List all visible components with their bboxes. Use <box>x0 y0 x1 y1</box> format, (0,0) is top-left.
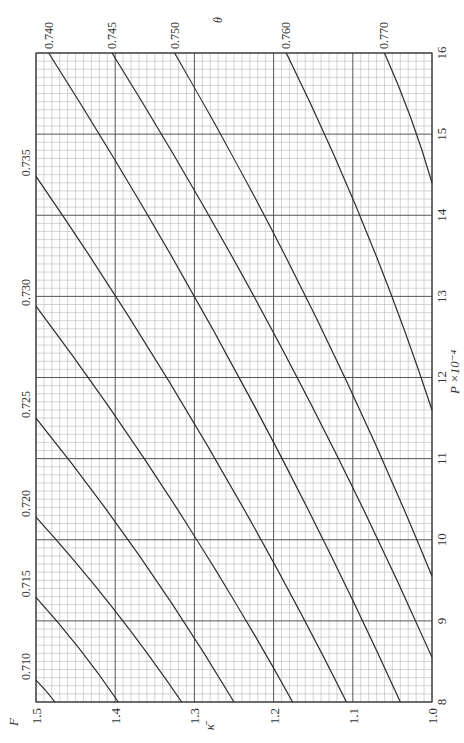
f-curve-0.745 <box>112 53 432 657</box>
x-tick-label: 8 <box>434 699 449 706</box>
y-tick-label: 1.2 <box>267 708 282 724</box>
x-tick-label: 14 <box>434 208 449 222</box>
f-curve-0.735 <box>36 176 346 702</box>
curve-label: 0.720 <box>19 490 33 517</box>
curve-label: 0.750 <box>168 22 182 49</box>
x-tick-label: 16 <box>434 46 449 60</box>
x-tick-label: 9 <box>434 618 449 625</box>
f-curve-0.710 <box>36 680 55 702</box>
curve-label: 0.725 <box>19 391 33 418</box>
curve-label: 0.710 <box>19 653 33 680</box>
chart-svg: 0.7100.7150.7200.7250.7300.7350.7400.745… <box>0 0 464 743</box>
y-tick-label: 1.0 <box>425 708 440 724</box>
x-tick-label: 15 <box>434 128 449 141</box>
y-tick-label: 1.3 <box>187 708 202 724</box>
x-tick-label: 13 <box>434 290 449 303</box>
curve-label: 0.715 <box>19 570 33 597</box>
curve-label: 0.760 <box>279 22 293 49</box>
curve-label: 0.735 <box>19 149 33 176</box>
curve-label: 0.745 <box>105 22 119 49</box>
f-curve-0.725 <box>36 418 234 702</box>
f-curve-0.720 <box>36 517 182 702</box>
family-theta-label: θ <box>211 17 225 23</box>
f-curve-0.750 <box>175 53 432 576</box>
curve-labels: 0.7100.7150.7200.7250.7300.7350.7400.745… <box>19 22 391 680</box>
y-tick-label: 1.4 <box>108 708 123 725</box>
x-axis-label: P ×10⁻⁴ <box>447 349 462 395</box>
y-tick-label: 1.1 <box>346 708 361 724</box>
curve-label: 0.730 <box>19 279 33 306</box>
y-axis-label: κ̄ <box>202 720 217 730</box>
curve-label: 0.740 <box>42 22 56 49</box>
y-tick-label: 1.5 <box>29 708 44 724</box>
curve-label: 0.770 <box>377 22 391 49</box>
nomogram-chart: 0.7100.7150.7200.7250.7300.7350.7400.745… <box>0 0 464 743</box>
family-f-label: F <box>6 717 21 727</box>
x-tick-label: 11 <box>434 452 449 465</box>
x-tick-label: 10 <box>434 533 449 546</box>
y-axis-ticks: 1.01.11.21.31.41.5 <box>29 708 440 725</box>
